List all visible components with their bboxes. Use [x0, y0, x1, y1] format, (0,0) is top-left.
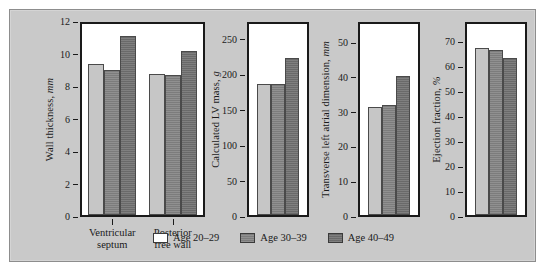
y-tick-label: 0 [65, 212, 78, 222]
y-tick-label: 10 [338, 177, 356, 187]
legend-label: Age 30–39 [260, 232, 306, 243]
plot-area [80, 22, 205, 217]
y-axis-ticks: 024681012 [34, 22, 78, 217]
chart-panel-3: Transverse left atrial dimension, mm0102… [310, 22, 420, 217]
y-axis-ticks: 010203040506070 [421, 22, 463, 217]
chart-panel-2: Calculated LV mass, g050100150200250 [200, 22, 309, 217]
y-tick-label: 0 [343, 212, 356, 222]
y-tick-label: 100 [222, 141, 245, 151]
y-tick-label: 40 [445, 112, 463, 122]
y-tick-label: 250 [222, 35, 245, 45]
bar [503, 58, 517, 216]
chart-panel-4: Ejection fraction, %010203040506070 [421, 22, 527, 217]
y-tick-label: 10 [445, 187, 463, 197]
figure-root: Wall thickness, mm024681012Ventricularse… [0, 0, 545, 276]
chart-panel-1: Wall thickness, mm024681012Ventricularse… [34, 22, 205, 217]
bar [489, 50, 503, 215]
x-tick-mark [112, 219, 113, 225]
bar [382, 105, 396, 215]
plot-area [247, 22, 309, 217]
y-tick-label: 4 [65, 147, 78, 157]
legend-swatch [240, 233, 255, 243]
bar [368, 107, 382, 215]
x-tick-mark [173, 219, 174, 225]
bar [285, 58, 299, 215]
y-tick-label: 20 [338, 142, 356, 152]
y-tick-label: 50 [445, 87, 463, 97]
bar [165, 75, 181, 215]
legend-item: Age 40–49 [328, 232, 394, 243]
y-tick-label: 20 [445, 162, 463, 172]
plot-area [358, 22, 420, 217]
bar [396, 76, 410, 215]
y-axis-ticks: 050100150200250 [200, 22, 245, 217]
y-tick-label: 10 [60, 50, 78, 60]
y-tick-label: 6 [65, 115, 78, 125]
y-tick-label: 70 [445, 37, 463, 47]
bar [271, 84, 285, 215]
y-tick-label: 50 [338, 38, 356, 48]
panel-row: Wall thickness, mm024681012Ventricularse… [10, 10, 537, 225]
y-tick-label: 2 [65, 180, 78, 190]
y-tick-label: 0 [232, 212, 245, 222]
y-tick-label: 200 [222, 70, 245, 80]
legend-item: Age 30–39 [240, 232, 306, 243]
legend-item: Age 20–29 [153, 232, 219, 243]
legend-swatch [153, 233, 168, 243]
legend-label: Age 40–49 [348, 232, 394, 243]
y-tick-label: 30 [338, 108, 356, 118]
bar [181, 51, 197, 215]
y-axis-ticks: 01020304050 [310, 22, 356, 217]
y-tick-label: 150 [222, 106, 245, 116]
plot-area [465, 22, 527, 217]
y-tick-label: 30 [445, 137, 463, 147]
y-tick-label: 0 [450, 212, 463, 222]
bar [88, 64, 104, 215]
y-tick-label: 12 [60, 17, 78, 27]
legend-swatch [328, 233, 343, 243]
legend: Age 20–29Age 30–39Age 40–49 [10, 232, 537, 243]
legend-label: Age 20–29 [173, 232, 219, 243]
bar [104, 70, 120, 215]
bar [257, 84, 271, 215]
figure-frame: Wall thickness, mm024681012Ventricularse… [9, 9, 536, 262]
y-tick-label: 50 [227, 177, 245, 187]
y-tick-label: 8 [65, 82, 78, 92]
y-tick-label: 60 [445, 62, 463, 72]
bar [149, 74, 165, 215]
y-tick-label: 40 [338, 73, 356, 83]
bar [120, 36, 136, 215]
bar [475, 48, 489, 216]
